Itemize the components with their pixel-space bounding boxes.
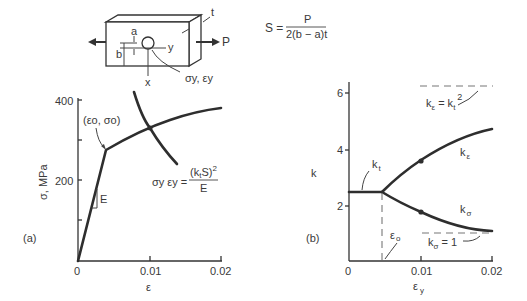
eps0-label: εo xyxy=(390,229,401,243)
formula-s-denominator: 2(b − a)t xyxy=(286,28,327,40)
panel-a-xlabel: ε xyxy=(146,281,151,293)
thickness-label: t xyxy=(211,6,214,18)
panel-b-xtick-0: 0 xyxy=(345,265,351,277)
panel-b-ytick-2: 2 xyxy=(337,200,343,212)
neuber-numerator: (ktS)2 xyxy=(190,164,217,180)
chart-panel-b xyxy=(345,82,493,261)
dimension-a-label: a xyxy=(131,25,138,37)
panel-a-ytick-200: 200 xyxy=(55,175,73,187)
formula-s-lhs: S = xyxy=(265,21,283,35)
k-sigma-label: kσ xyxy=(460,203,472,218)
panel-a-tag: (a) xyxy=(23,232,36,244)
panel-b-xtick-002: 0.02 xyxy=(481,265,502,277)
panel-b-ylabel: k xyxy=(311,167,317,179)
panel-b-xtick-001: 0.01 xyxy=(411,265,432,277)
panel-a-xtick-001: 0.01 xyxy=(140,265,161,277)
panel-b-ytick-4: 4 xyxy=(337,144,343,156)
modulus-label: E xyxy=(100,193,107,205)
load-label: P xyxy=(222,35,230,49)
local-stress-strain-label: σy, εy xyxy=(185,72,213,84)
panel-b-xlabel: εy xyxy=(413,280,424,295)
kt-label: kt xyxy=(372,158,382,173)
specimen-diagram xyxy=(88,15,220,76)
k-sigma-asymptote-label: kσ = 1 xyxy=(428,236,457,251)
k-epsilon-label: kε xyxy=(460,146,471,161)
figure: t a b y x P σy, εy S = P 2(b − a)t 400 2… xyxy=(0,0,527,301)
neuber-denominator: E xyxy=(200,182,207,194)
formula-s-numerator: P xyxy=(304,13,311,25)
k-epsilon-curve xyxy=(382,129,492,192)
x-axis-label: x xyxy=(145,76,151,88)
k-sigma-curve xyxy=(382,192,492,231)
dimension-b-label: b xyxy=(116,48,122,60)
yield-point-label: (εo, σo) xyxy=(83,114,120,126)
panel-a-xtick-0: 0 xyxy=(74,265,80,277)
panel-a-ylabel: σ, MPa xyxy=(37,164,49,200)
k-epsilon-asymptote-label: kε = kt2 xyxy=(426,92,462,112)
neuber-hyperbola xyxy=(134,92,177,164)
panel-b-ytick-6: 6 xyxy=(337,87,343,99)
panel-b-tag: (b) xyxy=(306,232,319,244)
panel-a-xtick-002: 0.02 xyxy=(210,265,231,277)
neuber-lhs: σy εy = xyxy=(152,176,187,188)
y-axis-label: y xyxy=(168,41,174,53)
panel-a-ytick-400: 400 xyxy=(55,95,73,107)
